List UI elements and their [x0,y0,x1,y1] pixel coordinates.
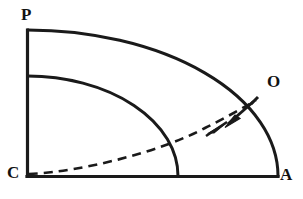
inner-arc [28,76,179,176]
vertex-label-p: P [21,6,31,23]
diagram-canvas [0,0,303,199]
vertex-label-o: O [267,73,280,90]
vertex-label-a: A [280,166,292,183]
arrow-outward-shaft [206,122,227,136]
geometric-figure: P C A O [0,0,303,199]
vertex-label-c: C [7,164,19,181]
outer-arc [28,30,279,176]
arc-contact-tick [251,97,258,104]
arrow-inward-head-icon [225,115,240,128]
